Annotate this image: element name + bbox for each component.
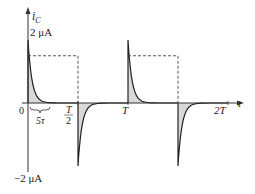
five-tau-brace xyxy=(30,107,50,113)
pulse-curve-2 xyxy=(128,40,178,103)
x-tick-label-2T: 2T xyxy=(214,104,227,116)
capacitor-current-plot: iC 2 μA −2 μA 0 T 2 T 2T t 5τ xyxy=(0,0,255,194)
x-tick-label-zero: 0 xyxy=(19,105,24,116)
y-axis-arrow xyxy=(26,7,31,14)
x-tick-label-half-T-den: 2 xyxy=(66,115,71,126)
x-tick-label-T: T xyxy=(122,104,129,116)
x-tick-label-half-T-num: T xyxy=(66,104,73,115)
y-tick-label-pos: 2 μA xyxy=(30,26,52,38)
pulse-curve-1 xyxy=(78,103,128,166)
y-axis-label: iC xyxy=(32,9,41,25)
y-tick-label-neg: −2 μA xyxy=(14,172,42,184)
pulse-curve-0 xyxy=(28,40,78,103)
brace-label: 5τ xyxy=(36,115,45,126)
